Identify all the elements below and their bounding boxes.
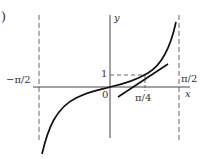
quarter-pi-label: π/4: [135, 93, 151, 103]
left-asymptote-label: −π/2: [6, 75, 31, 85]
y-axis-label: y: [114, 13, 120, 23]
tan-graph: [0, 0, 209, 159]
x-axis-label: x: [185, 89, 191, 99]
one-label: 1: [101, 69, 107, 79]
tan-curve: [42, 22, 176, 154]
right-asymptote-label: π/2: [181, 74, 197, 84]
origin-label: 0: [102, 90, 108, 100]
panel-mark: ): [1, 10, 6, 23]
